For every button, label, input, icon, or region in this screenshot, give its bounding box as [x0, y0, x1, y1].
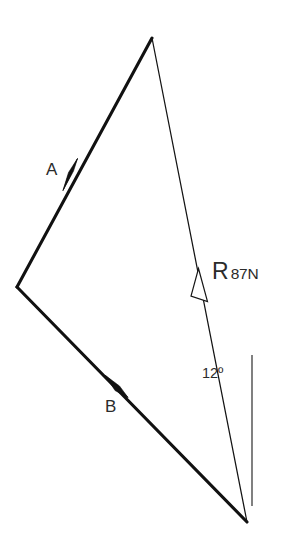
vector-r-arrowhead-icon: [191, 269, 208, 302]
vector-b-arrowhead-fill-icon: [106, 376, 129, 398]
angle-label: 12º: [202, 366, 223, 381]
vector-a-label: A: [46, 161, 58, 178]
vector-r-symbol: R: [212, 260, 229, 283]
vector-b-line: [17, 287, 247, 522]
vector-r-magnitude: 87N: [231, 266, 259, 282]
vector-diagram-canvas: A B R 87N 12º: [0, 0, 282, 560]
vector-b-label: B: [105, 398, 117, 415]
vector-a-line: [17, 38, 152, 287]
vector-r-label: R 87N: [212, 260, 258, 283]
